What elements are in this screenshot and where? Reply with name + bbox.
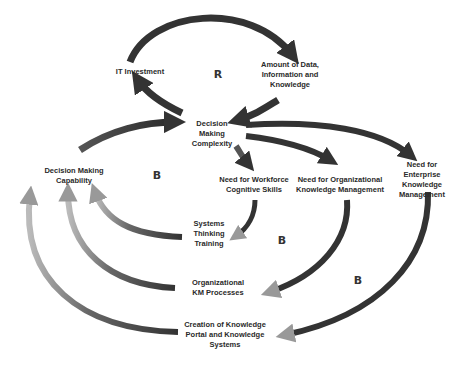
node-organizational-km: Need for Organizational Knowledge Manage… xyxy=(296,175,384,195)
loop-label-reinforcing: R xyxy=(214,68,222,81)
loop-label-balancing: B xyxy=(153,169,161,182)
node-workforce-cognitive-skills: Need for Workforce Cognitive Skills xyxy=(219,175,288,195)
arrow-capability-to-complexity xyxy=(80,122,175,150)
node-systems-thinking-training: Systems Thinking Training xyxy=(193,219,224,249)
arrow-workforce-to-systems xyxy=(236,200,255,236)
node-knowledge-portal: Creation of Knowledge Portal and Knowled… xyxy=(184,320,266,350)
node-amount-of-data: Amount of Data, Information and Knowledg… xyxy=(261,60,319,90)
arrow-enterprise-to-portal xyxy=(285,192,428,335)
node-it-investment: IT Investment xyxy=(116,67,164,77)
node-decision-making-complexity: Decision Making Complexity xyxy=(192,119,232,149)
arrow-complexity-to-it xyxy=(138,80,182,113)
arrow-it-to-data xyxy=(130,18,292,62)
loop-label-balancing: B xyxy=(354,274,362,287)
node-organizational-km-processes: Organizational KM Processes xyxy=(192,278,244,298)
arrow-systems-to-capability xyxy=(95,192,182,237)
node-enterprise-km: Need for Enterprise Knowledge Management xyxy=(397,160,448,200)
arrow-complexity-to-workforce xyxy=(236,146,248,164)
loop-label-balancing: B xyxy=(278,234,286,247)
node-decision-making-capability: Decision Making Capability xyxy=(44,166,103,186)
arrow-data-to-complexity xyxy=(238,100,278,120)
arrow-complexity-to-org-km xyxy=(246,136,330,160)
arrow-processes-to-capability xyxy=(68,192,175,288)
